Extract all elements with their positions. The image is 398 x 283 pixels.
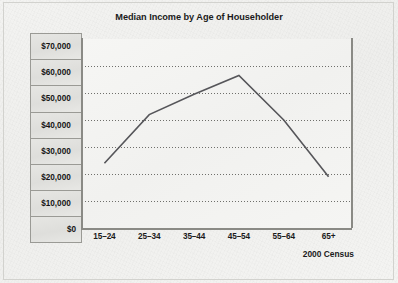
y-axis-line-right — [351, 38, 353, 228]
plot-area — [82, 39, 351, 228]
y-axis-tick-label: $20,000 — [30, 164, 82, 190]
x-axis-tick-label: 35–44 — [172, 232, 217, 241]
y-axis-tick-label: $30,000 — [30, 138, 82, 164]
y-axis-tick-label: $40,000 — [30, 112, 82, 138]
y-axis-tick-label: $10,000 — [30, 190, 82, 216]
source-note: 2000 Census — [303, 249, 354, 259]
y-axis-labels: $70,000$60,000$50,000$40,000$30,000$20,0… — [30, 33, 82, 243]
y-axis-tick-label: $70,000 — [30, 33, 82, 59]
x-axis-line — [81, 228, 352, 230]
x-axis-labels: 15–2425–3435–4445–5455–6465+ — [82, 232, 351, 241]
x-axis-tick-label: 55–64 — [261, 232, 306, 241]
y-axis-tick-label: $60,000 — [30, 59, 82, 85]
y-axis-tick-label: $0 — [30, 216, 82, 243]
chart-title: Median Income by Age of Householder — [0, 12, 398, 22]
y-axis-tick-label: $50,000 — [30, 85, 82, 111]
x-axis-tick-label: 65+ — [306, 232, 351, 241]
chart-figure: Median Income by Age of Householder $70,… — [0, 0, 398, 283]
x-axis-tick-label: 45–54 — [216, 232, 261, 241]
data-series-line — [82, 39, 351, 228]
x-axis-tick-label: 15–24 — [82, 232, 127, 241]
x-axis-tick-label: 25–34 — [127, 232, 172, 241]
